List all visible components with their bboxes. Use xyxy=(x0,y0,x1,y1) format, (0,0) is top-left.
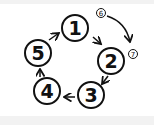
node-4: 4 xyxy=(34,78,60,104)
small-node-7: 7 xyxy=(129,50,138,60)
cycle-diagram: 1 2 3 4 5 6 7 xyxy=(0,0,154,125)
node-5: 5 xyxy=(25,40,51,66)
small-node-6-label: 6 xyxy=(99,10,104,18)
node-5-label: 5 xyxy=(31,42,44,64)
node-1-label: 1 xyxy=(68,17,81,39)
arrow-5-to-1 xyxy=(49,33,59,40)
node-2-label: 2 xyxy=(104,50,117,72)
node-3: 3 xyxy=(78,82,104,108)
node-1: 1 xyxy=(62,15,88,41)
node-2: 2 xyxy=(98,48,124,74)
node-4-label: 4 xyxy=(40,80,53,102)
arrow-1-to-2 xyxy=(93,37,101,44)
arrow-2-to-3 xyxy=(102,76,108,84)
small-node-6: 6 xyxy=(97,9,106,19)
arrow-6-to-7-curved xyxy=(107,16,130,42)
small-node-7-label: 7 xyxy=(131,51,135,59)
node-3-label: 3 xyxy=(84,84,97,106)
